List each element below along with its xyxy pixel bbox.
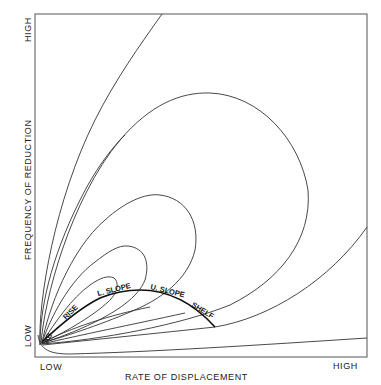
- x-axis-high-label: HIGH: [333, 361, 358, 371]
- zone-label-u-slope: U. SLOPE: [150, 282, 186, 299]
- contour-loop-large: [41, 93, 308, 344]
- x-axis-title: RATE OF DISPLACEMENT: [125, 372, 248, 382]
- y-axis-high-label: HIGH: [23, 17, 33, 42]
- y-axis-title: FREQUENCY OF REDUCTION: [23, 119, 33, 260]
- diagram-canvas: AB RISE L. SLOPE U. SLOPE SHELF HIGH FRE…: [0, 0, 381, 385]
- x-axis-low-label: LOW: [40, 362, 62, 372]
- y-axis-low-label: LOW: [23, 325, 33, 347]
- contour-bottom: [38, 335, 367, 354]
- zone-label-shelf: SHELF: [190, 300, 216, 321]
